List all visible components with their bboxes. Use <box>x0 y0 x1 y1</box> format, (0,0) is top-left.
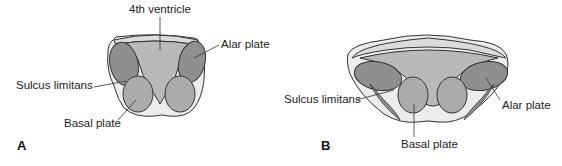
label-a-alar-plate: Alar plate <box>221 38 270 50</box>
label-a-basal-plate: Basal plate <box>64 117 121 129</box>
label-b-basal-plate: Basal plate <box>401 138 458 150</box>
label-b-sulcus-limitans: Sulcus limitans <box>284 93 361 105</box>
panel-b-basal-plate-left <box>398 77 428 113</box>
panel-a-drawing <box>94 17 219 120</box>
panel-b-letter: B <box>321 138 330 153</box>
label-a-fourth-ventricle: 4th ventricle <box>129 3 191 15</box>
panel-b-drawing <box>347 35 510 137</box>
label-a-sulcus-limitans: Sulcus limitans <box>16 79 93 91</box>
panel-b-basal-plate-right <box>437 77 467 113</box>
panel-a-letter: A <box>17 138 26 153</box>
label-b-alar-plate: Alar plate <box>502 99 551 111</box>
panel-a-basal-plate-right <box>165 76 195 112</box>
panel-a-basal-plate-left <box>123 76 153 112</box>
